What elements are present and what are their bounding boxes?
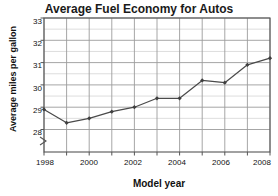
x-axis-title: Model year [40, 178, 278, 189]
chart-plot-svg [0, 0, 278, 196]
axis-tick-marks [41, 18, 271, 156]
chart-container: Average Fuel Economy for Autos Average m… [0, 0, 278, 196]
y-axis-break-icon [40, 137, 46, 145]
